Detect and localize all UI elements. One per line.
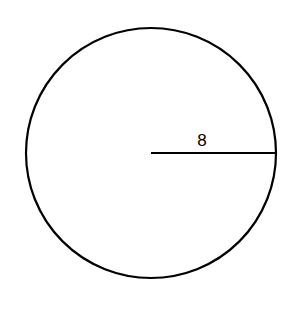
circle-diagram: 8: [0, 0, 293, 331]
radius-label: 8: [197, 131, 206, 150]
